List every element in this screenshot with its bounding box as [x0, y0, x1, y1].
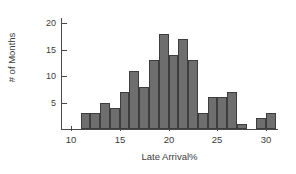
x-axis-tick-label: 25 — [202, 135, 232, 145]
x-axis-tick-label: 20 — [154, 135, 184, 145]
histogram-bar — [159, 34, 169, 129]
histogram-bar — [129, 71, 139, 129]
x-axis-title: Late Arrival% — [61, 151, 278, 162]
histogram-bar — [227, 92, 237, 129]
histogram-bar — [256, 118, 266, 129]
histogram-bar — [169, 55, 179, 129]
y-axis-tick-label: 5 — [0, 99, 56, 108]
histogram-bar — [149, 60, 159, 129]
x-axis-tick-label: 30 — [251, 135, 281, 145]
histogram-bar — [178, 39, 188, 129]
histogram-bar — [188, 60, 198, 129]
histogram-bar — [208, 97, 218, 129]
histogram-bar — [100, 103, 110, 129]
y-axis-title: # of Months — [6, 22, 17, 94]
histogram-bar — [198, 113, 208, 129]
histogram-bar — [90, 113, 100, 129]
plot-area — [61, 18, 278, 129]
histogram-bar — [120, 92, 130, 129]
histogram-figure: 5101520 1015202530 Late Arrival% # of Mo… — [0, 0, 296, 174]
histogram-bar — [139, 87, 149, 129]
histogram-bar — [110, 108, 120, 129]
histogram-bar — [266, 113, 276, 129]
histogram-bar — [81, 113, 91, 129]
histogram-bar — [237, 124, 247, 129]
x-axis-tick-label: 10 — [56, 135, 86, 145]
histogram-bar — [217, 97, 227, 129]
x-axis-tick-label: 15 — [105, 135, 135, 145]
